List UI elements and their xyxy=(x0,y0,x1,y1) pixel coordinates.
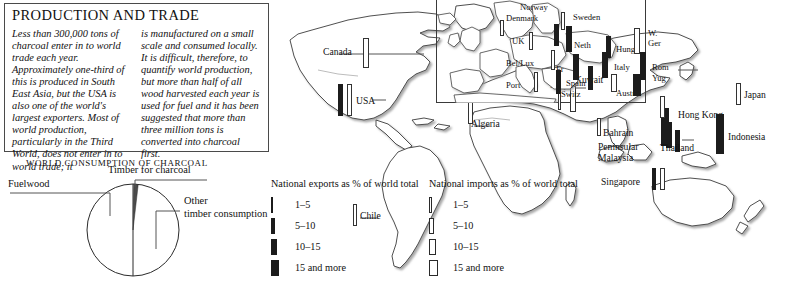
legend-row: 15 and more xyxy=(429,257,589,278)
inset-label-norway: Norway xyxy=(520,2,548,12)
mark-indonesia-exports xyxy=(716,114,724,154)
mark-singapore-exports xyxy=(652,168,656,190)
mark-usa-imports xyxy=(347,84,352,116)
legend-row: 1–5 xyxy=(271,194,421,215)
mark-norway-exports xyxy=(554,24,559,46)
inset-label-denmark: Denmark xyxy=(506,13,538,23)
map-label-singapore: Singapore xyxy=(601,176,640,187)
legend-swatch-exports-1 xyxy=(271,197,291,213)
mark-austria-exports xyxy=(633,74,641,96)
inset-label-spain: Spain xyxy=(566,78,586,88)
pie-label-other-line2: timber consumption xyxy=(184,208,267,219)
legend-national-exports: National exports as % of world total 1–5… xyxy=(271,178,421,278)
inset-label-sweden: Sweden xyxy=(573,12,600,22)
mark-w-ger-imports xyxy=(634,28,640,54)
legend-label-exports-1: 1–5 xyxy=(295,199,310,210)
world-consumption-pie-chart: WORLD CONSUMPTION OF CHARCOAL Fuelwood T… xyxy=(4,158,280,290)
legend-row: 10–15 xyxy=(271,236,421,257)
map-label-peninsular: Peninsular xyxy=(598,141,639,152)
mark-canada-imports xyxy=(363,38,369,68)
legend-row: 5–10 xyxy=(271,215,421,236)
map-label-malaysia: Malaysia xyxy=(598,152,633,163)
inset-land-ireland xyxy=(448,33,460,47)
legend-imports-title: National imports as % of world total xyxy=(429,178,589,189)
inset-land-north-africa xyxy=(454,93,556,103)
legend-row: 15 and more xyxy=(271,257,421,278)
legend-row: 1–5 xyxy=(429,194,589,215)
legend-swatch-imports-3 xyxy=(429,239,449,255)
inset-label-port: Port xyxy=(506,80,520,90)
inset-label-rom: Rom xyxy=(652,62,669,72)
inset-land-britain xyxy=(460,27,480,51)
legend-exports-title: National exports as % of world total xyxy=(271,178,421,189)
map-label-thailand: Thailand xyxy=(660,142,694,153)
mark-bahrain-imports xyxy=(597,118,601,136)
mark-fr-exports xyxy=(573,54,579,80)
panel-body: Less than 300,000 tons of charcoal enter… xyxy=(12,28,262,173)
legend-national-imports: National imports as % of world total 1–5… xyxy=(429,178,589,278)
legend-label-imports-3: 10–15 xyxy=(453,241,478,252)
page-title: PRODUCTION AND TRADE xyxy=(12,7,199,24)
production-and-trade-panel: PRODUCTION AND TRADE Less than 300,000 t… xyxy=(4,3,270,153)
mark-central-exports xyxy=(588,66,593,90)
inset-label-uk: UK xyxy=(512,36,524,46)
map-label-algeria: Algeria xyxy=(471,118,500,129)
inset-land-iberia xyxy=(450,69,484,93)
map-label-bahrain: Bahrain xyxy=(603,127,633,138)
inset-label-neth: Neth xyxy=(574,40,591,50)
legend-label-imports-1: 1–5 xyxy=(453,199,468,210)
map-label-usa: USA xyxy=(356,95,375,106)
pie-label-other-line1: Other xyxy=(184,195,208,206)
legend-swatch-exports-2 xyxy=(271,218,291,234)
legend-row: 10–15 xyxy=(429,236,589,257)
map-label-japan: Japan xyxy=(744,89,766,100)
legend-swatch-exports-3 xyxy=(271,239,291,255)
mark-port-imports xyxy=(534,72,538,92)
panel-column-1: Less than 300,000 tons of charcoal enter… xyxy=(12,28,132,173)
legend-swatch-imports-4 xyxy=(429,260,449,276)
mark-japan-imports xyxy=(736,83,741,105)
legend-row: 5–10 xyxy=(429,215,589,236)
map-label-indonesia: Indonesia xyxy=(728,131,765,142)
mark-italy-exports xyxy=(602,52,608,78)
inset-label-w-ger-1: W. xyxy=(648,28,657,38)
panel-column-2: is manufactured on a small scale and con… xyxy=(141,28,261,173)
mark-uk-imports xyxy=(529,32,533,50)
mark-usa-exports xyxy=(338,84,343,116)
legend-swatch-imports-2 xyxy=(429,218,449,234)
inset-label-italy: Italy xyxy=(614,62,630,72)
mark-bel-lux-imports xyxy=(551,50,555,70)
inset-label-w-ger-2: Ger xyxy=(648,38,661,48)
legend-label-exports-4: 15 and more xyxy=(295,262,346,273)
legend-label-exports-2: 5–10 xyxy=(295,220,315,231)
legend-label-imports-4: 15 and more xyxy=(453,262,504,273)
inset-label-hung: Hung xyxy=(616,44,635,54)
map-label-canada: Canada xyxy=(323,46,352,57)
pie-label-fuelwood: Fuelwood xyxy=(8,178,50,189)
mark-sweden-imports xyxy=(561,12,565,30)
mark-neth-exports xyxy=(566,26,572,52)
pie-label-timber-for-charcoal: Timber for charcoal xyxy=(108,164,191,175)
mark-denmark-imports xyxy=(500,20,504,36)
inset-label-yug: Yug xyxy=(652,73,666,83)
legend-swatch-imports-1 xyxy=(429,197,449,213)
inset-label-switz: Switz xyxy=(561,89,581,99)
mark-singapore-imports xyxy=(660,168,665,190)
legend-label-imports-2: 5–10 xyxy=(453,220,473,231)
legend-swatch-exports-4 xyxy=(271,260,291,276)
inset-label-bel-lux: Bel/Lux xyxy=(506,58,534,68)
inset-land-iceland xyxy=(438,13,456,25)
mark-hong-kong-imports xyxy=(660,96,665,118)
legend-label-exports-3: 10–15 xyxy=(295,241,320,252)
